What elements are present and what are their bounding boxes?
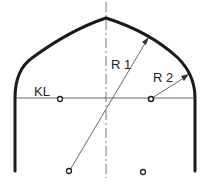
r2-label: R 2 [153,70,173,85]
r1-arrowhead-icon [142,37,149,45]
kl-label: KL [34,84,50,99]
r2-arrowhead-icon [181,74,189,81]
r1-radius-line [70,40,147,170]
arch-profile-diagram: KL R 1 R 2 [0,0,201,190]
r2-center-point [149,97,154,102]
r1-label: R 1 [111,57,131,72]
r1-center-point [67,169,72,174]
bottom-right-point [141,170,146,175]
kl-left-point [58,97,63,102]
